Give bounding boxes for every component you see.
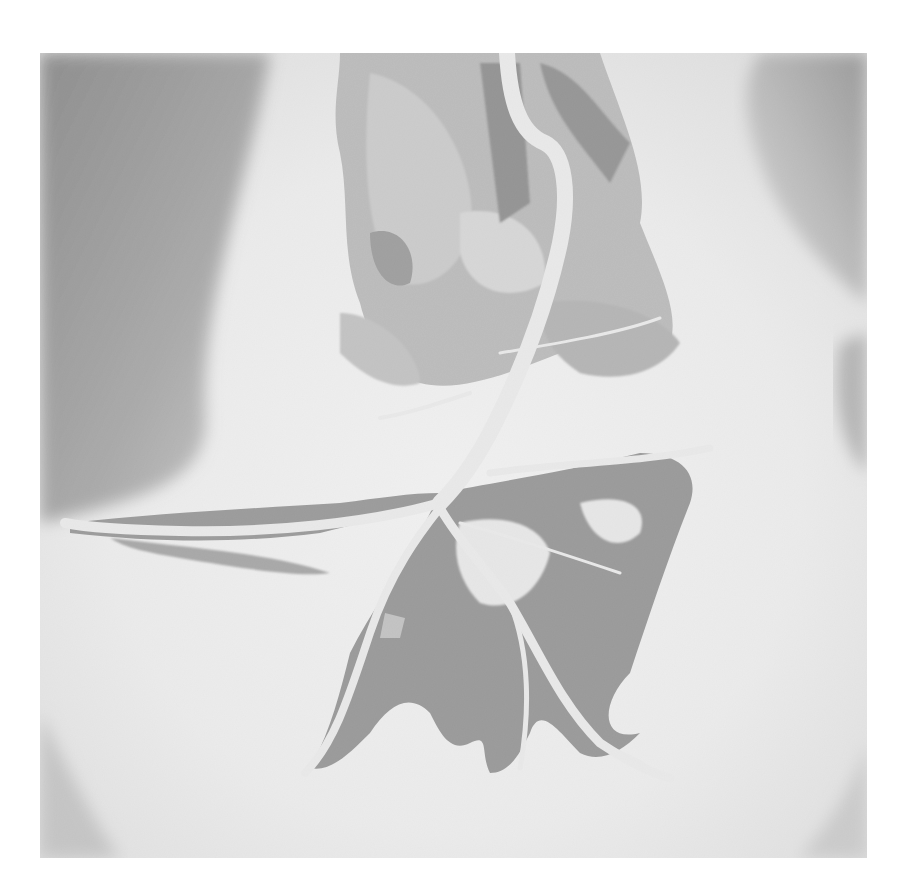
satellite-photo	[40, 53, 867, 858]
delta-image	[40, 53, 867, 858]
film-grain	[40, 53, 867, 858]
